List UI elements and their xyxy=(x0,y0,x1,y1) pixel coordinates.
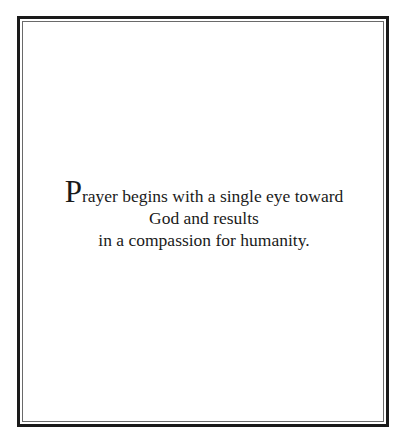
drop-cap-initial: P xyxy=(65,174,82,209)
quote-line-3: in a compassion for humanity. xyxy=(0,229,408,251)
quote-line-2: God and results xyxy=(0,207,408,229)
quote-block: Prayer begins with a single eye toward G… xyxy=(0,181,408,251)
quote-line-1: Prayer begins with a single eye toward xyxy=(0,181,408,207)
quote-line-1-text: rayer begins with a single eye toward xyxy=(82,186,343,206)
